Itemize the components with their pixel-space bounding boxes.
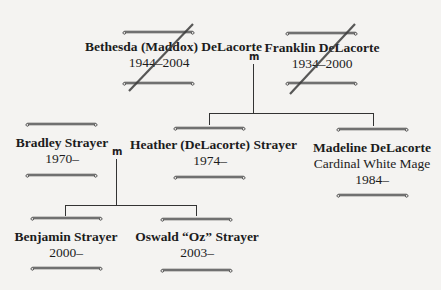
- scroll-ornament: [30, 265, 103, 271]
- scroll-ornament: [122, 80, 195, 86]
- person-years: 1944–2004: [85, 55, 233, 71]
- person-benjamin: Benjamin Strayer 2000–: [6, 229, 126, 261]
- person-bethesda: Bethesda (Maddox) DeLacorte 1944–2004: [85, 39, 233, 71]
- person-name: Bethesda (Maddox) DeLacorte: [85, 39, 233, 55]
- scroll-ornament: [285, 30, 358, 36]
- person-years: 2000–: [6, 245, 126, 261]
- person-years: 1974–: [130, 153, 290, 169]
- person-franklin: Franklin DeLacorte 1934–2000: [262, 40, 382, 72]
- person-name: Oswald “Oz” Strayer: [131, 229, 263, 245]
- child-drop-line: [373, 113, 374, 126]
- person-bradley: Bradley Strayer 1970–: [2, 135, 122, 167]
- scroll-ornament: [160, 216, 233, 222]
- scroll-ornament: [336, 192, 409, 198]
- scroll-ornament: [25, 172, 98, 178]
- person-name: Heather (DeLacorte) Strayer: [130, 137, 290, 153]
- scroll-ornament: [30, 215, 103, 221]
- descent-line: [116, 159, 117, 205]
- marriage-symbol: m: [112, 147, 122, 157]
- person-years: 1934–2000: [262, 56, 382, 72]
- scroll-ornament: [336, 126, 409, 132]
- person-name: Benjamin Strayer: [6, 229, 126, 245]
- person-oswald: Oswald “Oz” Strayer 2003–: [131, 229, 263, 261]
- person-title: Cardinal White Mage: [302, 156, 441, 172]
- marriage-symbol: m: [249, 52, 259, 62]
- descent-line: [253, 64, 254, 113]
- person-years: 1984–: [302, 172, 441, 188]
- person-name: Franklin DeLacorte: [262, 40, 382, 56]
- scroll-ornament: [173, 125, 246, 131]
- scroll-ornament: [122, 29, 195, 35]
- sibling-line: [65, 205, 197, 206]
- scroll-ornament: [285, 80, 358, 86]
- person-years: 1970–: [2, 151, 122, 167]
- person-madeline: Madeline DeLacorte Cardinal White Mage 1…: [302, 140, 441, 188]
- person-name: Madeline DeLacorte: [302, 140, 441, 156]
- scroll-ornament: [25, 121, 98, 127]
- child-drop-line: [196, 205, 197, 216]
- child-drop-line: [209, 113, 210, 125]
- sibling-line: [209, 113, 374, 114]
- scroll-ornament: [160, 267, 233, 273]
- person-name: Bradley Strayer: [2, 135, 122, 151]
- scroll-ornament: [173, 174, 246, 180]
- person-years: 2003–: [131, 245, 263, 261]
- person-heather: Heather (DeLacorte) Strayer 1974–: [130, 137, 290, 169]
